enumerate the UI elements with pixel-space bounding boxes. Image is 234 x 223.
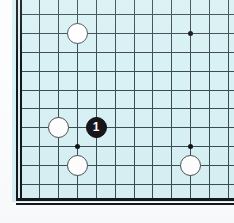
grid-line-horizontal <box>20 165 234 166</box>
grid-line-vertical <box>39 0 40 198</box>
grid-line-horizontal <box>20 146 234 147</box>
star-point-center-right <box>188 144 193 149</box>
grid-line-horizontal <box>20 90 234 91</box>
grid-line-vertical <box>171 0 172 198</box>
white-stone-left[interactable] <box>48 117 69 138</box>
grid-line-vertical <box>228 0 229 198</box>
white-stone-bottom-left[interactable] <box>67 155 88 176</box>
board-edge-left-inner <box>20 0 22 201</box>
black-stone-move-1[interactable]: 1 <box>86 117 107 138</box>
grid-line-vertical <box>115 0 116 198</box>
grid-line-vertical <box>209 0 210 198</box>
grid-line-horizontal <box>20 108 234 109</box>
grid-line-horizontal <box>20 33 234 34</box>
grid-line-vertical <box>152 0 153 198</box>
grid-line-vertical <box>134 0 135 198</box>
grid-line-horizontal <box>20 52 234 53</box>
go-diagram-screenshot: 1 <box>0 0 234 223</box>
board-edge-left-outer <box>16 0 18 201</box>
grid-line-vertical <box>58 0 59 198</box>
star-point-top-right <box>188 31 193 36</box>
board-edge-bottom-outer <box>16 203 234 205</box>
white-stone-top[interactable] <box>67 23 88 44</box>
grid-line-horizontal <box>20 71 234 72</box>
white-stone-bottom-right[interactable] <box>180 155 201 176</box>
board-edge-bottom-inner <box>16 198 234 201</box>
star-point-center-left <box>75 144 80 149</box>
move-number-label: 1 <box>93 121 100 133</box>
grid-line-vertical <box>96 0 97 198</box>
grid-line-horizontal <box>20 184 234 185</box>
go-board[interactable]: 1 <box>12 0 234 202</box>
grid-line-horizontal <box>20 14 234 15</box>
